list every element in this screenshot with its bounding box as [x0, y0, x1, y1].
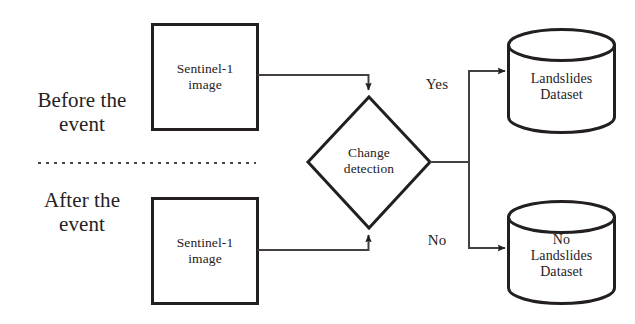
change-detection-diagram: Before the event After the event Sentine…: [0, 0, 635, 324]
change-detection-diamond: [308, 97, 430, 228]
connector-before-to-decision: [258, 75, 369, 90]
landslides-dataset-cylinder: [509, 30, 615, 133]
before-image-box: [153, 25, 258, 130]
connector-after-to-decision: [258, 235, 369, 250]
after-image-box: [153, 199, 258, 304]
no-landslides-dataset-cylinder: [509, 202, 615, 304]
diagram-canvas: [0, 0, 635, 324]
